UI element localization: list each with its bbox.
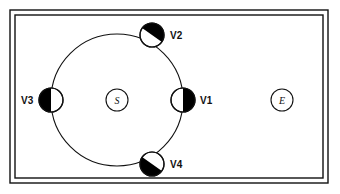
external-node-label: E	[278, 95, 285, 106]
ring-topology-diagram: S E V1 V2 V3	[0, 0, 340, 194]
vertex-v3-label: V3	[21, 95, 34, 106]
center-node-s[interactable]: S	[106, 89, 128, 111]
vertex-v2-label: V2	[170, 30, 183, 41]
vertex-v1-label: V1	[200, 95, 213, 106]
external-node-e[interactable]: E	[271, 89, 293, 111]
vertex-v4-label: V4	[170, 159, 183, 170]
center-node-label: S	[115, 95, 120, 106]
figure-canvas: S E V1 V2 V3	[0, 0, 340, 194]
